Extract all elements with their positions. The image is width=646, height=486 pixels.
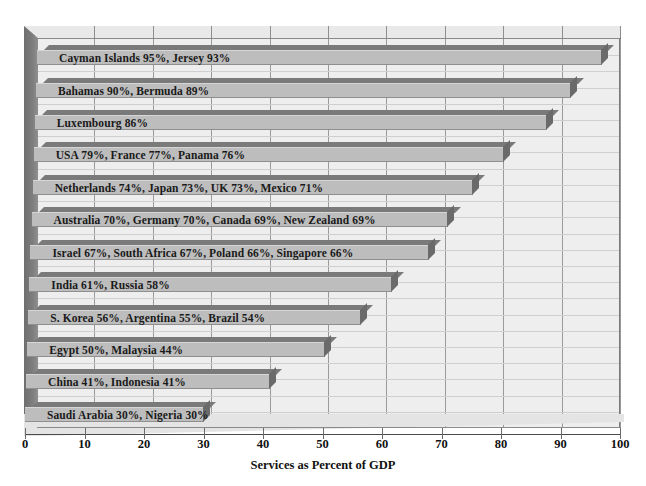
bar-label: China 41%, Indonesia 41% [48, 375, 186, 389]
x-axis-tick-label: 90 [554, 437, 567, 452]
bar-label: Israel 67%, South Africa 67%, Poland 66%… [52, 246, 353, 260]
bar: USA 79%, France 77%, Panama 76% [34, 142, 504, 157]
bar: India 61%, Russia 58% [29, 272, 392, 287]
x-axis-tick-label: 70 [435, 437, 448, 452]
bar: Bahamas 90%, Bermuda 89% [36, 78, 572, 93]
x-axis-tick-label: 30 [197, 437, 210, 452]
bar: Cayman Islands 95%, Jersey 93% [37, 45, 602, 60]
bar: Australia 70%, Germany 70%, Canada 69%, … [32, 207, 449, 222]
bar-label: Luxembourg 86% [57, 116, 148, 130]
bar-label: Cayman Islands 95%, Jersey 93% [59, 51, 230, 65]
bar-label: Australia 70%, Germany 70%, Canada 69%, … [54, 213, 376, 227]
x-axis-tick-label: 80 [495, 437, 508, 452]
bar: China 41%, Indonesia 41% [26, 369, 270, 384]
bar-label: Bahamas 90%, Bermuda 89% [58, 84, 209, 98]
x-axis-title: Services as Percent of GDP [0, 458, 646, 473]
bar: S. Korea 56%, Argentina 55%, Brazil 54% [28, 305, 361, 320]
x-axis-tick-label: 20 [138, 437, 151, 452]
bar-label: Netherlands 74%, Japan 73%, UK 73%, Mexi… [55, 181, 323, 195]
x-axis-tick-label: 40 [257, 437, 270, 452]
bar-label: USA 79%, France 77%, Panama 76% [56, 148, 245, 162]
bar-label: Egypt 50%, Malaysia 44% [49, 343, 183, 357]
bar-chart: Cayman Islands 95%, Jersey 93%Bahamas 90… [0, 0, 646, 486]
bar: Netherlands 74%, Japan 73%, UK 73%, Mexi… [33, 175, 473, 190]
x-axis-tick-label: 10 [78, 437, 91, 452]
bar: Luxembourg 86% [35, 110, 547, 125]
x-axis-tick-label: 50 [316, 437, 329, 452]
bar-label: Saudi Arabia 30%, Nigeria 30% [47, 408, 209, 422]
bar: Saudi Arabia 30%, Nigeria 30% [25, 402, 204, 417]
x-axis-tick-label: 100 [611, 437, 630, 452]
x-axis-tick-label: 60 [376, 437, 389, 452]
x-axis-tick-label: 0 [22, 437, 28, 452]
bar-label: India 61%, Russia 58% [51, 278, 169, 292]
bar-series: Cayman Islands 95%, Jersey 93%Bahamas 90… [0, 0, 646, 486]
bar: Egypt 50%, Malaysia 44% [27, 337, 325, 352]
bar: Israel 67%, South Africa 67%, Poland 66%… [30, 240, 429, 255]
bar-label: S. Korea 56%, Argentina 55%, Brazil 54% [50, 311, 265, 325]
